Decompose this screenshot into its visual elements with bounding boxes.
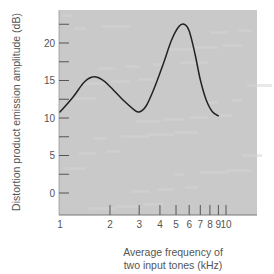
x-axis-title-line-2: two input tones (kHz) [124, 259, 223, 271]
y-axis-title: Distortion product emission amplitude (d… [10, 13, 22, 211]
y-tick-label: 5 [49, 150, 55, 161]
y-tick-label: 0 [49, 188, 55, 199]
x-tick-label: 3 [136, 219, 142, 230]
chart: 05101520 12345678910 Distortion product … [0, 0, 274, 274]
y-tick-label: 20 [44, 38, 56, 49]
x-tick-label: 6 [186, 219, 192, 230]
x-tick-label: 4 [157, 219, 163, 230]
x-axis-title-line-1: Average frequency of [123, 246, 223, 258]
y-tick-label: 15 [44, 75, 56, 86]
plot-background [59, 10, 257, 215]
x-tick-label: 7 [198, 219, 204, 230]
x-tick-label: 1 [57, 219, 63, 230]
y-tick-label: 10 [44, 113, 56, 124]
x-tick-label: 10 [220, 219, 232, 230]
x-tick-label: 8 [207, 219, 213, 230]
x-tick-label: 2 [107, 219, 113, 230]
x-tick-label: 5 [173, 219, 179, 230]
